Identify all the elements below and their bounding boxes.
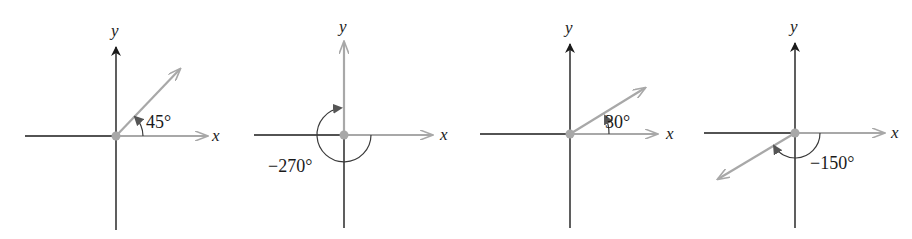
y-axis-label: y [563,18,573,37]
diagram-negative-270-degrees: x y −270° [254,17,448,228]
angle-diagrams-figure: x y 45° x y −270° x y 30° x y −150° [0,0,912,239]
diagram-negative-150-degrees: x y −150° [704,17,899,228]
x-axis-label: x [439,125,448,144]
angle-label: 45° [146,112,171,132]
angle-arc-icon [135,117,143,136]
x-axis-label: x [665,124,674,143]
vertex-point [340,131,349,140]
vertex-point [112,132,121,141]
diagram-45-degrees: x y 45° [25,21,220,230]
vertex-point [566,130,575,139]
angle-label: −270° [268,156,312,176]
angle-label: 30° [605,112,630,132]
vertex-point [791,129,800,138]
y-axis-label: y [109,21,119,40]
x-axis-label: x [211,126,220,145]
y-axis-label: y [337,17,347,36]
angle-label: −150° [810,153,854,173]
y-axis-label: y [788,17,798,36]
terminal-side-ray [718,133,795,179]
diagram-30-degrees: x y 30° [480,18,674,228]
x-axis-label: x [890,123,899,142]
